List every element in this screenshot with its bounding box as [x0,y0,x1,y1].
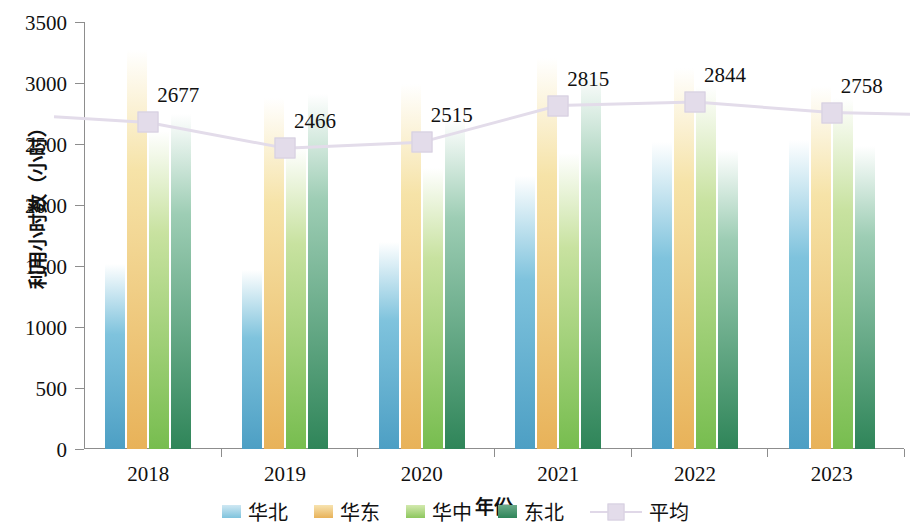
bar-huadong-2023 [811,86,831,449]
average-value-label-2021: 2815 [567,67,609,92]
y-tick-label: 2500 [25,132,67,157]
x-tick-label-2020: 2020 [401,462,443,487]
x-tick [357,449,358,457]
x-tick-label-2019: 2019 [264,462,306,487]
bar-huadong-2022 [674,68,694,449]
bar-huabei-2021 [515,176,535,449]
legend-item-华北[interactable]: 华北 [222,497,288,526]
average-value-label-2022: 2844 [704,63,746,88]
y-tick-label: 3000 [25,71,67,96]
y-tick-label: 2000 [25,193,67,218]
chart-legend: 华北华东华中东北平均 [0,497,910,526]
average-value-label-2018: 2677 [157,83,199,108]
legend-item-华东[interactable]: 华东 [314,497,380,526]
y-tick-label: 500 [36,376,68,401]
legend-item-华中[interactable]: 华中 [406,497,472,526]
bar-huabei-2019 [242,270,262,449]
x-tick [494,449,495,457]
y-tick: 1000 [75,327,84,328]
y-tick: 3500 [75,22,84,23]
y-tick-label: 3500 [25,10,67,35]
y-tick-label: 1000 [25,315,67,340]
average-marker-2023 [821,102,842,123]
legend-item-东北[interactable]: 东北 [498,497,564,526]
bar-huazhong-2022 [696,86,716,449]
bar-dongbei-2018 [171,114,191,450]
y-axis-line [84,22,85,449]
bar-dongbei-2020 [445,120,465,449]
bar-huabei-2020 [379,242,399,449]
average-marker-2019 [275,138,296,159]
x-tick [631,449,632,457]
legend-label: 华北 [248,497,288,526]
y-tick: 0 [75,449,84,450]
bar-huabei-2022 [652,142,672,449]
bar-huabei-2023 [789,140,809,450]
legend-swatch-icon [314,505,333,518]
bar-dongbei-2021 [581,72,601,449]
legend-label: 华东 [340,497,380,526]
legend-swatch-icon [406,505,425,518]
average-marker-2018 [138,112,159,133]
x-tick-label-2023: 2023 [811,462,853,487]
x-tick [904,449,905,457]
average-value-label-2023: 2758 [841,74,883,99]
average-value-label-2020: 2515 [431,103,473,128]
plot-area: 0500100015002000250030003500 26772466251… [84,22,904,449]
x-tick-label-2022: 2022 [674,462,716,487]
bar-huazhong-2021 [559,153,579,449]
bar-huadong-2018 [127,50,147,449]
legend-label: 东北 [524,497,564,526]
legend-line-icon [590,502,642,521]
legend-swatch-icon [498,505,517,518]
bar-dongbei-2022 [718,150,738,449]
legend-marker-icon [607,503,624,520]
average-line [84,22,904,449]
bar-huadong-2021 [537,58,557,449]
bar-dongbei-2019 [308,94,328,449]
legend-label: 平均 [649,497,689,526]
y-tick: 1500 [75,266,84,267]
legend-item-平均[interactable]: 平均 [590,497,689,526]
average-marker-2020 [411,132,432,153]
legend-swatch-icon [222,505,241,518]
bar-huazhong-2018 [149,131,169,449]
bar-huazhong-2023 [833,98,853,449]
average-value-label-2019: 2466 [294,109,336,134]
bar-huabei-2018 [105,264,125,449]
bar-huazhong-2019 [286,147,306,449]
y-tick-label: 1500 [25,254,67,279]
y-tick: 3000 [75,83,84,84]
bar-dongbei-2023 [855,146,875,449]
y-tick: 500 [75,388,84,389]
y-tick-label: 0 [57,437,68,462]
x-tick-label-2018: 2018 [127,462,169,487]
bar-huazhong-2020 [423,168,443,449]
average-marker-2022 [685,92,706,113]
utilization-hours-bar-chart: 利用小时数（小时） 0500100015002000250030003500 2… [0,0,910,529]
legend-label: 华中 [432,497,472,526]
x-tick [221,449,222,457]
y-tick: 2500 [75,144,84,145]
x-tick-label-2021: 2021 [537,462,579,487]
average-marker-2021 [548,95,569,116]
y-tick: 2000 [75,205,84,206]
x-tick [767,449,768,457]
